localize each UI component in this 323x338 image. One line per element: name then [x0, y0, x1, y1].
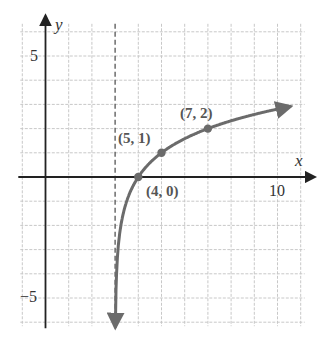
grid-lines [20, 24, 304, 326]
point-label-4-0: (4, 0) [146, 183, 179, 200]
point-label-7-2: (7, 2) [180, 105, 213, 122]
y-tick-label-neg5: −5 [20, 288, 37, 305]
x-tick-label-10: 10 [269, 182, 285, 199]
log-function-graph: x y 10 5 −5 (4, 0) (5, 1) (7, 2) [0, 0, 323, 338]
data-point-marker [204, 124, 212, 132]
data-point-marker [157, 149, 165, 157]
y-tick-label-5: 5 [30, 47, 38, 64]
data-point-marker [134, 173, 142, 181]
y-axis-label: y [53, 15, 63, 34]
point-label-5-1: (5, 1) [118, 130, 151, 147]
x-axis-label: x [294, 151, 303, 170]
